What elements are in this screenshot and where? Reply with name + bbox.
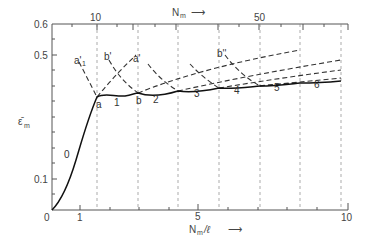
tick-label-x1: 1 xyxy=(77,212,83,223)
svg-text:0: 0 xyxy=(64,149,70,160)
svg-text:N: N xyxy=(189,224,196,235)
svg-text:N: N xyxy=(172,7,179,18)
svg-text:a: a xyxy=(96,99,102,110)
tick-label-x5: 5 xyxy=(195,211,201,222)
svg-text:b: b xyxy=(136,95,142,106)
svg-text:b'': b'' xyxy=(217,48,226,59)
svg-text:a': a' xyxy=(74,55,82,66)
svg-text:5: 5 xyxy=(274,82,280,93)
tick-label-top10: 10 xyxy=(90,12,102,23)
svg-text:1: 1 xyxy=(114,97,120,108)
tick-label-y05: 0.5 xyxy=(34,50,48,61)
svg-text:3: 3 xyxy=(194,88,200,99)
curve-annotations: 0 a 1 b 2 3 4 5 6 a' 1 b' a' b'' xyxy=(64,48,320,160)
arrow-right-icon: ⟶ xyxy=(228,224,242,235)
svg-text:2: 2 xyxy=(153,94,159,105)
axes xyxy=(52,24,348,210)
svg-text:b': b' xyxy=(104,51,112,62)
svg-text:m: m xyxy=(24,122,30,129)
svg-text:/ℓ: /ℓ xyxy=(203,224,211,235)
svg-text:a': a' xyxy=(133,53,141,64)
tick-label-x0: 0 xyxy=(44,212,50,223)
svg-text:m: m xyxy=(180,12,186,19)
svg-text:6: 6 xyxy=(314,79,320,90)
y-axis-title: ε̄ m xyxy=(18,116,30,129)
x-axis-bottom-title: N m /ℓ ⟶ xyxy=(189,224,242,236)
svg-text:m: m xyxy=(197,229,203,236)
tick-label-top50: 50 xyxy=(254,12,266,23)
tick-label-y01: 0.1 xyxy=(34,174,48,185)
svg-text:1: 1 xyxy=(82,60,86,67)
tick-label-y06: 0.6 xyxy=(34,19,48,30)
chart: 0 1 5 10 10 50 0.1 0.5 0.6 ε̄ m N m ⟶ N … xyxy=(0,0,369,242)
svg-text:4: 4 xyxy=(234,85,240,96)
tick-label-x10: 10 xyxy=(341,212,353,223)
arrow-right-icon: ⟶ xyxy=(191,7,205,18)
x-axis-top-title: N m ⟶ xyxy=(172,7,205,19)
